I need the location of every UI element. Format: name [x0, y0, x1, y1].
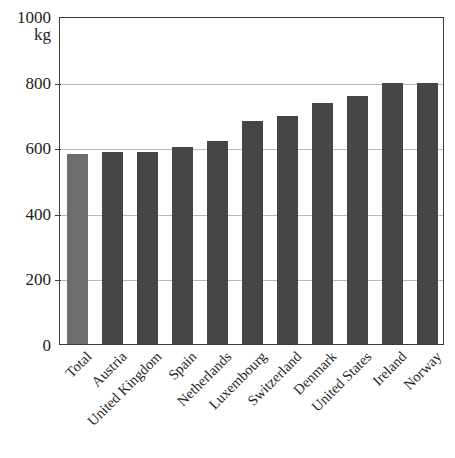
bar-spain: [172, 147, 194, 344]
y-axis-tick-label: 1000: [17, 9, 51, 26]
bar-united-states: [347, 96, 369, 344]
bar-total: [67, 154, 89, 344]
bar-norway: [417, 83, 439, 344]
bar-austria: [102, 152, 124, 344]
y-axis-tick: [55, 149, 61, 150]
bar-denmark: [312, 103, 334, 344]
y-axis-tick-label: 800: [26, 75, 52, 92]
plot-area: [59, 17, 444, 345]
x-axis-label-norway: Norway: [400, 349, 444, 393]
bar-united-kingdom: [137, 152, 159, 344]
bar-netherlands: [207, 141, 229, 344]
x-axis-labels: TotalAustriaUnited KingdomSpainNetherlan…: [0, 345, 455, 458]
y-axis-tick: [55, 280, 61, 281]
y-axis-tick-label: 200: [26, 271, 52, 288]
y-axis-unit-label: kg: [34, 26, 51, 43]
y-axis-tick-label: 400: [26, 206, 52, 223]
bar-luxembourg: [242, 121, 264, 344]
bar-switzerland: [277, 116, 299, 344]
y-axis-tick-label: 600: [26, 140, 52, 157]
y-axis-tick: [55, 215, 61, 216]
bar-ireland: [382, 83, 404, 344]
bar-chart: kg 02004006008001000 TotalAustriaUnited …: [0, 0, 455, 458]
y-axis-tick: [55, 84, 61, 85]
